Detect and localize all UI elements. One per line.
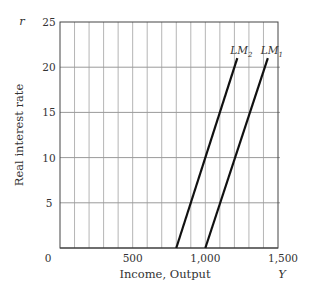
x-tick-label: 500 [123,252,143,264]
x-tick-label: 1,000 [190,252,220,264]
y-tick-label: 5 [46,197,53,209]
y-tick-label: 10 [42,152,55,164]
y-tick-label: 25 [42,16,55,28]
lm-curve-chart: LM2LM1 5101520255001,0001,500 r Real int… [0,0,311,298]
series-label-lm2: LM2 [229,44,253,59]
y-tick-label: 20 [42,61,55,73]
origin-label: 0 [45,252,52,264]
y-axis-label: Real interest rate [12,84,26,187]
axis-ticks: 5101520255001,0001,500 [42,16,298,264]
y-axis-symbol: r [19,14,26,28]
series-lines: LM2LM1 [176,44,283,248]
x-axis-symbol: Y [278,267,287,281]
y-tick-label: 15 [42,106,55,118]
series-lm1 [205,58,267,248]
series-lm2 [176,58,237,248]
x-axis-label: Income, Output [119,267,211,281]
x-tick-label: 1,500 [268,252,298,264]
